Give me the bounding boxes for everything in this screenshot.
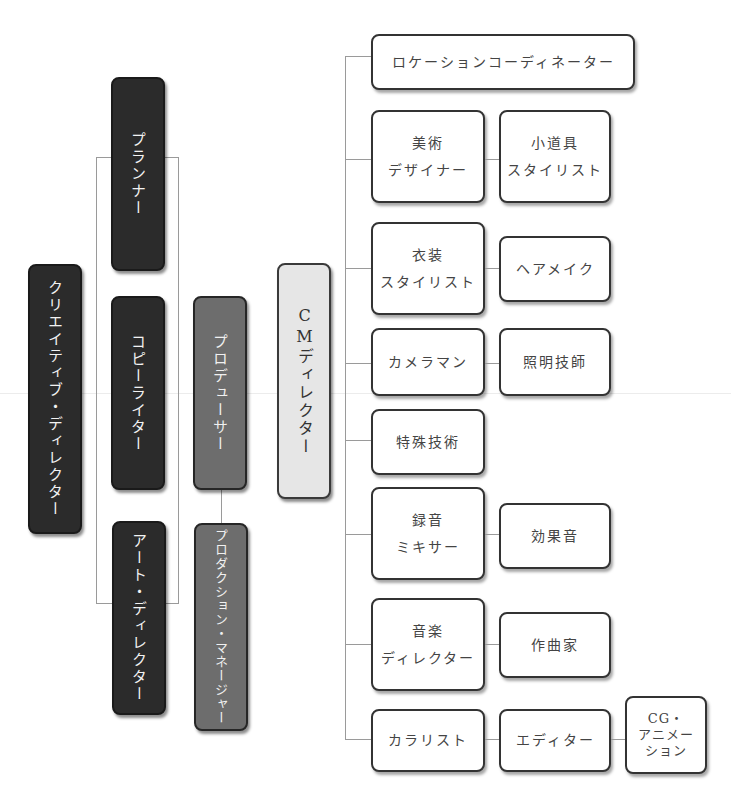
node-label: コピーライター [128,334,149,453]
node-label: CMディレクター [292,306,316,456]
node-special-effects[interactable]: 特殊技術 [371,409,485,475]
node-label-line: ション [645,743,687,759]
node-label: 効果音 [531,523,579,550]
node-art-director[interactable]: アート・ディレクター [112,521,166,715]
node-label: 照明技師 [523,349,587,376]
node-location-coordinator[interactable]: ロケーションコーディネーター [371,34,635,90]
node-label: プランナー [128,132,149,217]
node-label: 作曲家 [531,632,579,659]
node-label: クリエイティブ・ディレクター [45,280,66,518]
connector [221,487,222,525]
node-production-manager[interactable]: プロダクション・マネージャー [194,523,248,731]
node-label: カメラマン [388,349,468,376]
node-planner[interactable]: プランナー [111,77,165,271]
node-cm-director[interactable]: CMディレクター [277,263,331,499]
connector [485,159,500,160]
node-cg-animation[interactable]: CG・ アニメー ション [625,696,707,774]
node-hair-makeup[interactable]: ヘアメイク [499,236,611,302]
node-art-designer[interactable]: 美術 デザイナー [371,110,485,203]
node-colorist[interactable]: カラリスト [371,709,485,772]
connector [485,363,500,364]
node-label-line: 小道具 [531,130,579,157]
node-copywriter[interactable]: コピーライター [111,296,165,490]
node-lighting-technician[interactable]: 照明技師 [499,328,611,396]
connector [345,159,371,160]
node-label: アート・ディレクター [129,533,150,703]
node-label-line: デザイナー [388,157,468,184]
node-label: ヘアメイク [516,256,595,283]
connector [611,739,626,740]
connector [345,534,371,535]
node-label: プロデューサー [210,334,231,453]
node-prop-stylist[interactable]: 小道具 スタイリスト [499,110,611,203]
node-costume-stylist[interactable]: 衣装 スタイリスト [371,222,485,315]
connector [96,157,97,604]
node-label: ロケーションコーディネーター [392,49,615,76]
node-recording-mixer[interactable]: 録音 ミキサー [371,487,485,580]
connector [345,268,371,269]
connector [485,644,500,645]
node-label-line: 音楽 [412,618,444,645]
connector [178,157,179,604]
node-producer[interactable]: プロデューサー [193,296,247,490]
connector [345,440,371,441]
node-label: プロダクション・マネージャー [212,529,231,725]
connector [345,644,371,645]
node-label-line: スタイリスト [507,157,603,184]
node-label-line: 衣装 [412,242,444,269]
connector [345,739,371,740]
node-label-line: CG・ [648,711,684,727]
node-label-line: 録音 [412,507,444,534]
node-label-line: ディレクター [381,645,475,672]
node-sound-effects[interactable]: 効果音 [499,503,611,569]
node-label-line: 美術 [412,130,444,157]
node-editor[interactable]: エディター [499,709,611,772]
org-chart: クリエイティブ・ディレクター プランナー コピーライター アート・ディレクター … [0,0,731,800]
node-cameraman[interactable]: カメラマン [371,328,485,396]
connector [485,534,500,535]
center-guide-line [0,393,731,394]
connector [485,268,500,269]
node-composer[interactable]: 作曲家 [499,612,611,678]
node-label: 特殊技術 [396,429,460,456]
node-label: エディター [516,727,595,754]
node-creative-director[interactable]: クリエイティブ・ディレクター [28,264,82,534]
node-label: カラリスト [388,727,468,754]
connector [485,739,500,740]
node-label-line: スタイリスト [380,269,476,296]
node-label-line: ミキサー [396,534,460,561]
node-label-line: アニメー [638,727,694,743]
connector [345,56,371,57]
connector [345,363,371,364]
node-music-director[interactable]: 音楽 ディレクター [371,598,485,691]
